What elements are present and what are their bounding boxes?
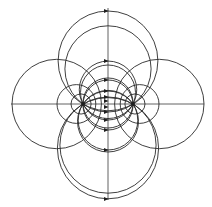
field-line-diagram (0, 0, 212, 207)
left-charge (81, 102, 85, 106)
right-charge (131, 102, 135, 106)
axes (11, 8, 204, 200)
